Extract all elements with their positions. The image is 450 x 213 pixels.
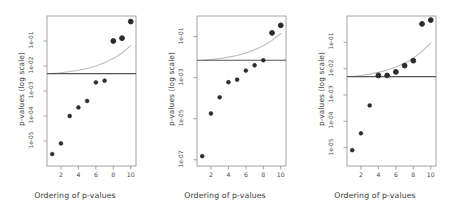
chart-panel-1: 1e-051e-041e-031e-021e-01246810p-values …: [0, 0, 150, 213]
data-point: [359, 131, 363, 135]
chart-panel-3: 1e-051e-041e-031e-021e-01246810p-values …: [300, 0, 450, 213]
y-axis-title: p-values (log scale): [167, 52, 176, 126]
data-point: [68, 114, 72, 118]
data-point: [235, 78, 239, 82]
data-point: [200, 154, 204, 158]
bh-critical-values: [202, 34, 281, 61]
data-point: [253, 63, 257, 67]
data-point: [244, 69, 248, 73]
bh-critical-values: [52, 46, 131, 74]
data-point: [278, 23, 283, 28]
data-point: [85, 99, 89, 103]
data-point: [428, 18, 433, 23]
y-axis-title: p-values (log scale): [317, 52, 326, 126]
data-point: [368, 104, 372, 108]
x-axis-title: Ordering of p-values: [300, 191, 450, 200]
data-point: [50, 152, 54, 156]
x-axis-title: Ordering of p-values: [0, 191, 150, 200]
data-point: [420, 22, 425, 27]
data-point: [103, 79, 107, 83]
data-point: [128, 19, 133, 24]
data-point: [218, 95, 222, 99]
data-point: [227, 80, 231, 84]
data-point: [77, 106, 81, 110]
data-point: [402, 63, 407, 68]
data-point: [411, 58, 416, 63]
figure-panel-group: 1e-051e-041e-031e-021e-01246810p-values …: [0, 0, 450, 213]
chart-panel-2: 1e-071e-051e-031e-01246810p-values (log …: [150, 0, 300, 213]
data-point: [376, 73, 381, 78]
plot-frame: [347, 16, 436, 166]
data-point: [94, 81, 98, 85]
plot-frame: [197, 16, 286, 166]
data-point: [120, 36, 125, 41]
data-point: [393, 70, 398, 75]
bh-critical-values: [352, 43, 431, 77]
data-point: [350, 148, 354, 152]
data-point: [111, 39, 116, 44]
data-point: [385, 73, 390, 78]
data-point: [270, 31, 275, 36]
data-point: [261, 58, 265, 62]
x-axis-title: Ordering of p-values: [150, 191, 300, 200]
y-axis-title: p-values (log scale): [17, 52, 26, 126]
data-point: [59, 142, 63, 146]
data-point: [209, 112, 213, 116]
